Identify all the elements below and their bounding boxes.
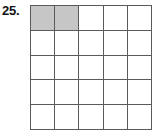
grid-row bbox=[31, 30, 152, 55]
grid-row bbox=[31, 55, 152, 80]
grid-cell[interactable] bbox=[79, 105, 103, 130]
grid-cell[interactable] bbox=[79, 6, 103, 31]
grid-row bbox=[31, 6, 152, 31]
grid-body bbox=[31, 6, 152, 130]
grid-cell[interactable] bbox=[55, 55, 79, 80]
grid-cell[interactable] bbox=[55, 6, 79, 31]
grid-cell[interactable] bbox=[103, 80, 127, 105]
grid-cell[interactable] bbox=[103, 105, 127, 130]
grid-cell[interactable] bbox=[103, 6, 127, 31]
grid-cell[interactable] bbox=[127, 30, 151, 55]
grid-cell[interactable] bbox=[127, 6, 151, 31]
worksheet-problem-item: 25. bbox=[0, 0, 152, 132]
grid-cell[interactable] bbox=[55, 105, 79, 130]
grid-cell[interactable] bbox=[31, 105, 55, 130]
grid-cell[interactable] bbox=[31, 6, 55, 31]
grid-cell[interactable] bbox=[79, 55, 103, 80]
grid-cell[interactable] bbox=[127, 80, 151, 105]
problem-number-label: 25. bbox=[2, 3, 19, 18]
grid-cell[interactable] bbox=[127, 55, 151, 80]
grid-cell[interactable] bbox=[55, 30, 79, 55]
grid-row bbox=[31, 80, 152, 105]
grid-figure bbox=[30, 5, 146, 124]
grid-cell[interactable] bbox=[31, 30, 55, 55]
grid-cell[interactable] bbox=[103, 30, 127, 55]
grid-row bbox=[31, 105, 152, 130]
grid-cell[interactable] bbox=[79, 30, 103, 55]
grid-cell[interactable] bbox=[79, 80, 103, 105]
grid-cell[interactable] bbox=[31, 80, 55, 105]
fraction-grid-table bbox=[30, 5, 152, 130]
grid-cell[interactable] bbox=[103, 55, 127, 80]
grid-cell[interactable] bbox=[31, 55, 55, 80]
grid-cell[interactable] bbox=[127, 105, 151, 130]
grid-cell[interactable] bbox=[55, 80, 79, 105]
